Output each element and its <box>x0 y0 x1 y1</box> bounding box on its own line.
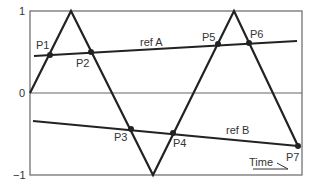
point-p1 <box>47 52 53 58</box>
point-p2 <box>88 49 94 55</box>
point-p4 <box>170 130 176 136</box>
label-p5: P5 <box>202 31 215 43</box>
point-p5 <box>215 41 221 47</box>
label-p1: P1 <box>36 39 49 51</box>
time-axis-label: Time <box>249 156 273 168</box>
label-p7: P7 <box>286 151 299 163</box>
point-p6 <box>246 40 252 46</box>
label-p6: P6 <box>250 28 263 40</box>
ref-b-label: ref B <box>226 124 249 136</box>
point-p7 <box>295 143 301 149</box>
pwm-diagram: 1 0 −1 ref A ref B P1 P2 P3 P4 P5 P6 P7 … <box>0 0 319 186</box>
label-p3: P3 <box>114 131 127 143</box>
y-tick-0: 0 <box>19 87 25 99</box>
time-arrow-head-icon <box>277 163 288 169</box>
y-tick-minus-1: −1 <box>13 169 26 181</box>
ref-a-label: ref A <box>140 36 163 48</box>
label-p4: P4 <box>173 137 186 149</box>
ref-a-line <box>34 41 297 56</box>
y-tick-1: 1 <box>19 5 25 17</box>
ref-b-line <box>33 121 298 146</box>
label-p2: P2 <box>76 57 89 69</box>
point-p3 <box>128 126 134 132</box>
